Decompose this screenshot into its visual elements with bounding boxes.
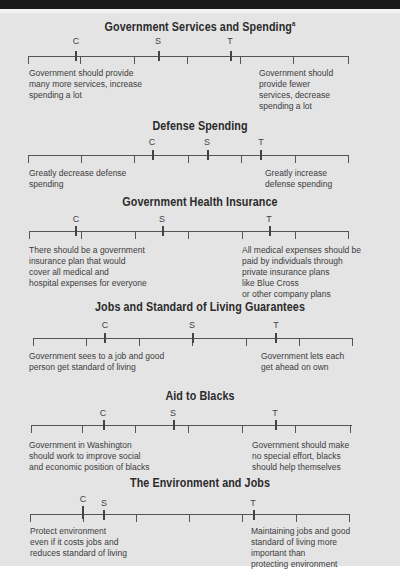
- scale-tick: [242, 425, 243, 433]
- scale-title: Government Health Insurance: [28, 195, 372, 209]
- left-anchor-text: Protect environment even if it costs job…: [30, 526, 127, 559]
- right-anchor-text: Greatly increase defense spending: [265, 168, 332, 190]
- marker-s: [162, 226, 164, 236]
- scale-tick: [241, 155, 242, 163]
- scale-tick: [81, 231, 82, 239]
- scale-tick: [293, 56, 294, 64]
- marker-c: [103, 420, 105, 430]
- scale-tick: [295, 155, 296, 163]
- marker-label-s: S: [187, 320, 197, 330]
- marker-label-c: C: [71, 36, 81, 46]
- scale-tick: [240, 56, 241, 64]
- marker-t: [230, 51, 232, 61]
- right-anchor-text: All medical expenses should be paid by i…: [242, 245, 361, 300]
- scale-tick: [187, 56, 188, 64]
- right-anchor-text: Government should make no special effort…: [252, 440, 349, 473]
- left-anchor-text: Greatly decrease defense spending: [29, 168, 126, 190]
- scale-tick: [134, 56, 135, 64]
- marker-label-s: S: [168, 408, 178, 418]
- marker-c: [75, 51, 77, 61]
- scale-tick: [29, 231, 30, 239]
- scale-tick: [81, 155, 82, 163]
- scale-line: [31, 425, 352, 426]
- scale-title: Government Services and Spendinga: [28, 20, 372, 34]
- scale-tick: [30, 514, 31, 522]
- scale-tick: [295, 425, 296, 433]
- scale-tick: [246, 338, 247, 346]
- scale-tick: [28, 56, 29, 64]
- marker-t: [275, 420, 277, 430]
- marker-label-c: C: [78, 494, 88, 504]
- scale-tick: [135, 425, 136, 433]
- scale-tick: [188, 155, 189, 163]
- scale-tick: [349, 514, 350, 522]
- scale-tick: [80, 56, 81, 64]
- marker-label-t: T: [264, 214, 274, 224]
- scale-line: [30, 514, 350, 515]
- marker-label-t: T: [270, 408, 280, 418]
- scale-line: [29, 231, 349, 232]
- marker-t: [260, 150, 262, 160]
- scale-tick: [295, 231, 296, 239]
- marker-c: [152, 150, 154, 160]
- scale-tick: [296, 514, 297, 522]
- marker-label-c: C: [100, 320, 110, 330]
- marker-label-s: S: [157, 214, 167, 224]
- marker-label-c: C: [147, 137, 157, 147]
- scale-tick: [352, 338, 353, 346]
- scale-tick: [242, 514, 243, 522]
- scale-tick: [31, 425, 32, 433]
- marker-s: [173, 420, 175, 430]
- scale-tick: [33, 338, 34, 346]
- right-anchor-text: Maintaining jobs and good standard of li…: [251, 526, 350, 570]
- scale-tick: [189, 514, 190, 522]
- scale-tick: [188, 231, 189, 239]
- scale-tick: [82, 425, 83, 433]
- marker-label-c: C: [98, 408, 108, 418]
- scale-tick: [188, 425, 189, 433]
- scale-tick: [350, 425, 351, 433]
- marker-t: [269, 226, 271, 236]
- left-anchor-text: Government should provide many more serv…: [29, 68, 142, 101]
- scale-title: Aid to Blacks: [28, 389, 372, 403]
- marker-s: [192, 333, 194, 343]
- marker-t: [253, 510, 255, 520]
- marker-c: [104, 333, 106, 343]
- marker-s: [207, 150, 209, 160]
- marker-label-t: T: [256, 137, 266, 147]
- marker-c: [82, 506, 84, 519]
- marker-s: [158, 51, 160, 61]
- top-dark-border: [0, 0, 400, 9]
- scale-tick: [348, 231, 349, 239]
- marker-label-t: T: [248, 498, 258, 508]
- scale-tick: [242, 231, 243, 239]
- scale-tick: [28, 155, 29, 163]
- marker-label-s: S: [202, 137, 212, 147]
- marker-label-s: S: [99, 498, 109, 508]
- marker-t: [275, 333, 277, 343]
- marker-s: [103, 510, 105, 520]
- right-anchor-text: Government lets each get ahead on own: [261, 351, 344, 373]
- footnote-marker: a: [292, 20, 295, 27]
- scale-title: Jobs and Standard of Living Guarantees: [28, 300, 372, 314]
- marker-label-s: S: [153, 36, 163, 46]
- scale-title: Defense Spending: [28, 119, 372, 133]
- marker-label-t: T: [271, 320, 281, 330]
- scale-tick: [299, 338, 300, 346]
- scale-tick: [135, 231, 136, 239]
- marker-c: [75, 226, 77, 236]
- left-anchor-text: There should be a government insurance p…: [29, 245, 147, 289]
- scale-tick: [86, 338, 87, 346]
- scale-tick: [348, 155, 349, 163]
- marker-label-c: C: [71, 214, 81, 224]
- marker-label-t: T: [225, 36, 235, 46]
- left-anchor-text: Government sees to a job and good person…: [29, 351, 164, 373]
- scale-tick: [136, 514, 137, 522]
- scale-tick: [139, 338, 140, 346]
- scale-tick: [348, 56, 349, 64]
- left-anchor-text: Government in Washington should work to …: [29, 440, 150, 473]
- right-anchor-text: Government should provide fewer services…: [259, 68, 333, 112]
- scale-title: The Environment and Jobs: [28, 476, 372, 490]
- scale-tick: [134, 155, 135, 163]
